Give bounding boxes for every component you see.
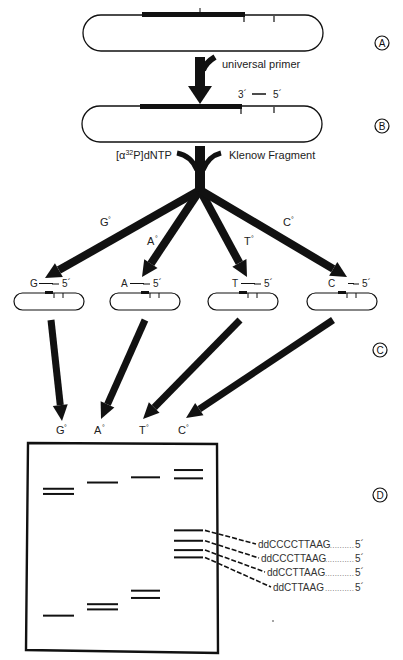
load-arrow-c (186, 317, 335, 418)
annotation-1-sequence: ddCCCTTAAG (261, 553, 327, 564)
reaction-t-insert (239, 291, 247, 294)
branch-label-a-marker: ° (155, 235, 158, 242)
reaction-t: T5´ (208, 278, 278, 310)
reaction-tubes: G5´A5´T5´C5´ (14, 278, 377, 310)
plasmid-a-insert (142, 12, 245, 17)
reaction-a-new-strand (130, 283, 144, 284)
lane-label-a: A ° (94, 424, 105, 436)
plasmid-b-insert (140, 104, 242, 109)
reaction-g-terminal-base: G (30, 278, 38, 289)
reaction-a-five-prime: 5´ (153, 278, 162, 289)
sequencing-gel (26, 443, 218, 653)
load-arrow-g-shaft (48, 320, 64, 406)
reaction-a-insert (141, 291, 149, 294)
reaction-t-plasmid (208, 293, 278, 310)
reaction-g-insert (45, 291, 53, 294)
lane-label-c-base: C (178, 424, 186, 436)
branch-label-t: T ° (244, 235, 254, 247)
annotation-0-five-prime: 5´ (355, 539, 364, 550)
annotation-3-dots: ............ (325, 584, 354, 593)
load-arrow-a (101, 319, 149, 419)
primer-5-prime: 5´ (273, 89, 282, 100)
step-b-marker: B (375, 119, 389, 133)
reaction-a-plasmid (110, 293, 180, 310)
lane-labels: G ° A ° T ° C ° (56, 424, 189, 436)
annotation-2-five-prime: 5´ (355, 567, 364, 578)
branch-label-t-base: T (244, 235, 251, 247)
lane-label-g: G ° (56, 424, 67, 436)
lane-label-t-base: T (139, 424, 146, 436)
primer-3-prime: 3´ (238, 89, 247, 100)
reaction-c-terminal-base: C (328, 278, 335, 289)
reaction-g: G5´ (14, 278, 84, 310)
reaction-t-terminal-base: T (232, 278, 238, 289)
step-a-label: A (379, 38, 386, 49)
annotation-1-dots: ............ (325, 555, 354, 564)
plasmid-a-outline (83, 15, 323, 51)
load-arrow-t-shaft (152, 318, 243, 410)
branch-arrow-g-shaft (57, 187, 202, 274)
gel-bands (43, 470, 203, 616)
gel-loading-arrows (48, 317, 335, 421)
annotation-0-sequence: ddCCCCTTAAG (258, 539, 331, 550)
fork-right-branch (203, 153, 221, 170)
step-c-label: C (376, 345, 383, 356)
band-sequence-annotations: ddCCCCTTAAG............5´ddCCCTTAAG.....… (205, 530, 364, 593)
reaction-g-five-prime: 5´ (62, 278, 71, 289)
lane-label-c-marker: ° (186, 424, 189, 431)
plasmid-b-outline (82, 106, 322, 142)
step-c-marker: C (373, 343, 387, 357)
annotation-0-dots: ............ (325, 541, 354, 550)
annotation-1-leader (205, 541, 259, 558)
reaction-t-new-strand (241, 283, 255, 284)
branch-label-c-base: C (283, 216, 291, 228)
reaction-branch-arrows (45, 187, 347, 278)
load-arrow-c-shaft (197, 317, 335, 412)
universal-primer-label: universal primer (222, 58, 301, 70)
branch-label-t-marker: ° (251, 235, 254, 242)
print-speck (272, 620, 274, 622)
sequencing-diagram: A universal primer 3´ 5´ B [α32P]dNTP Kl… (0, 0, 403, 660)
load-arrow-g-head (53, 404, 68, 421)
reaction-a-terminal-base: A (121, 278, 128, 289)
lane-label-t: T ° (139, 424, 149, 436)
annotation-2-dots: ............ (325, 569, 354, 578)
annotation-0: ddCCCCTTAAG............5´ (205, 530, 364, 550)
branch-label-g: G ° (100, 216, 111, 228)
branch-label-a: A ° (147, 235, 158, 247)
reaction-a: A5´ (110, 278, 180, 310)
reaction-c: C5´ (307, 278, 377, 310)
annotation-0-leader (205, 530, 256, 544)
lane-label-t-marker: ° (146, 424, 149, 431)
plasmid-b (82, 104, 322, 142)
annotation-2-sequence: ddCCTTAAG (267, 567, 325, 578)
lane-label-g-marker: ° (64, 424, 67, 431)
lane-label-a-marker: ° (102, 424, 105, 431)
reaction-t-five-prime: 5´ (264, 278, 273, 289)
branch-arrow-g (45, 187, 202, 278)
lane-label-c: C ° (178, 424, 189, 436)
branch-label-c-marker: ° (291, 216, 294, 223)
step-b-label: B (379, 121, 386, 132)
reaction-g-plasmid (14, 293, 84, 310)
klenow-fragment-label: Klenow Fragment (229, 149, 315, 161)
load-arrow-t (143, 318, 243, 419)
step-d-label: D (376, 490, 383, 501)
annotation-1-five-prime: 5´ (355, 553, 364, 564)
step-a-marker: A (375, 36, 389, 50)
arrow-add-primer-head (188, 86, 212, 104)
reaction-g-new-strand (39, 283, 53, 284)
primer: 3´ 5´ (238, 89, 282, 100)
lane-label-a-base: A (94, 424, 102, 436)
gel-frame (26, 443, 218, 653)
annotation-3-five-prime: 5´ (355, 582, 364, 593)
branch-label-g-marker: ° (108, 216, 111, 223)
fork-left-branch (177, 153, 197, 170)
reagent-fork (177, 146, 221, 192)
branch-label-a-base: A (147, 235, 155, 247)
load-arrow-a-shaft (104, 319, 148, 406)
reaction-c-insert (338, 291, 346, 294)
reaction-c-plasmid (307, 293, 377, 310)
step-d-marker: D (373, 488, 387, 502)
radiolabel-mid: P] (133, 149, 143, 161)
